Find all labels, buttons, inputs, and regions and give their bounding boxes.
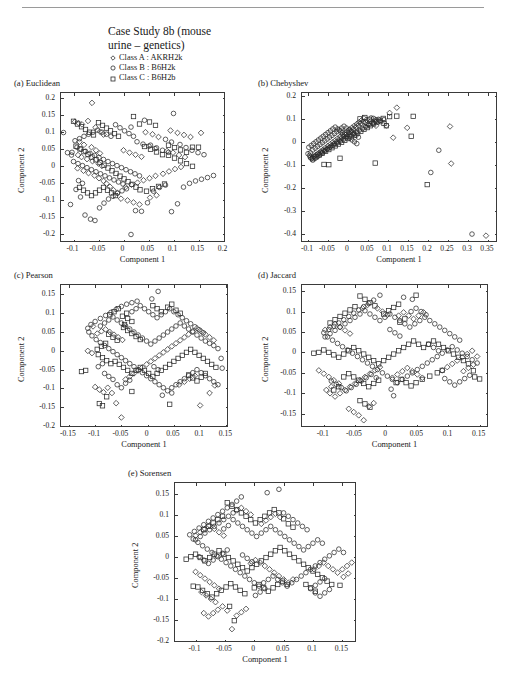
plot-area-d [301, 284, 488, 427]
x-tick-label: 0.1 [168, 244, 178, 253]
x-tick-label: 0.25 [440, 244, 453, 253]
x-tick-label: 0.05 [166, 429, 179, 438]
data-points-e [175, 483, 356, 642]
subplot-title-d: (d) Jaccard [258, 270, 296, 280]
x-tick-label: 0 [145, 429, 149, 438]
x-tick-label: 0.15 [191, 244, 204, 253]
page-top-rule [22, 7, 484, 8]
y-tick-label: -0.4 [258, 228, 296, 237]
x-tick-label: -0.1 [301, 244, 313, 253]
y-tick-label: 0.15 [258, 286, 296, 295]
plot-area-b [301, 92, 497, 242]
y-tick-label: -0.15 [258, 408, 296, 417]
subplot-title-b: (b) Chebyshev [258, 78, 308, 88]
x-tick-label: 0 [121, 244, 125, 253]
y-tick-label: 0.1 [14, 127, 55, 136]
x-tick-label: 0.35 [480, 244, 493, 253]
plot-area-c [60, 284, 228, 427]
caption-line-2: urine – genetics) [108, 38, 338, 52]
x-tick-label: -0.1 [88, 429, 100, 438]
y-axis-label: Component 2 [131, 543, 140, 588]
legend-label: Class C : B6H2b [119, 73, 176, 83]
y-tick-label: 0.05 [258, 326, 296, 335]
y-tick-label: 0.2 [258, 91, 296, 100]
figure-page: Case Study 8b (mouse urine – genetics) C… [0, 0, 506, 676]
y-tick [226, 426, 228, 427]
x-tick-label: 0.1 [307, 644, 317, 653]
plot-area-e [174, 482, 356, 642]
y-tick-label: -0.2 [14, 229, 55, 238]
x-tick-label: 0.2 [422, 244, 432, 253]
x-tick-label: 0.1 [194, 429, 204, 438]
x-tick-label: -0.05 [112, 429, 128, 438]
series-circle [322, 293, 480, 398]
y-tick-label: 0.15 [128, 488, 169, 497]
series-square [312, 293, 482, 409]
series-circle [306, 116, 475, 237]
x-tick-label: 0.15 [219, 429, 232, 438]
y-tick-label: -0.1 [14, 195, 55, 204]
y-axis-label: Component 2 [17, 336, 26, 381]
subplot-title-c: (c) Pearson [14, 270, 53, 280]
y-tick-label: 0.1 [128, 509, 169, 518]
x-tick-label: 0 [251, 644, 255, 653]
legend-label: Class A : AKRH2k [119, 53, 183, 63]
x-tick-label: 0 [383, 429, 387, 438]
y-tick-label: 0 [258, 137, 296, 146]
legend-item-0: Class A : AKRH2k [110, 53, 183, 63]
x-tick-label: -0.05 [216, 644, 232, 653]
x-tick-label: -0.15 [60, 429, 76, 438]
data-points-a [61, 93, 225, 242]
x-tick-label: 0.3 [462, 244, 472, 253]
legend-item-2: Class C : B6H2b [110, 73, 183, 83]
x-tick-label: 0.1 [382, 244, 392, 253]
y-tick-label: 0.1 [14, 308, 55, 317]
legend-label: Class B : B6H2k [119, 63, 176, 73]
series-circle [187, 487, 345, 599]
data-points-d [302, 285, 488, 427]
data-points-b [302, 93, 497, 242]
y-tick-label: 0.15 [14, 289, 55, 298]
y-axis-label: Component 2 [261, 148, 270, 193]
x-axis-label: Component 1 [372, 440, 417, 449]
y-axis-label: Component 2 [17, 148, 26, 193]
diamond-marker [110, 55, 116, 61]
series-circle [61, 111, 216, 237]
legend-item-1: Class B : B6H2k [110, 63, 183, 73]
x-tick-label: 0 [345, 244, 349, 253]
figure-legend: Class A : AKRH2kClass B : B6H2kClass C :… [110, 53, 183, 84]
circle-marker [110, 65, 116, 71]
subplot-title-a: (a) Euclidean [14, 78, 60, 88]
y-tick-label: -0.3 [258, 205, 296, 214]
y-tick [175, 641, 178, 642]
y-tick-label: -0.1 [128, 593, 169, 602]
x-tick-label: 0.05 [410, 429, 423, 438]
x-tick-label: 0.05 [360, 244, 373, 253]
y-tick-label: -0.15 [128, 614, 169, 623]
figure-caption-header: Case Study 8b (mouse urine – genetics) [108, 24, 338, 52]
x-tick-label: 0.1 [443, 429, 453, 438]
x-tick-label: -0.05 [319, 244, 335, 253]
subplot-title-e: (e) Sorensen [128, 468, 171, 478]
plot-area-a [60, 92, 225, 242]
y-tick-label: -0.2 [14, 421, 55, 430]
y-axis-label: Component 2 [261, 336, 270, 381]
y-tick-label: 0.1 [258, 306, 296, 315]
y-tick-label: -0.15 [14, 212, 55, 221]
x-tick-label: -0.1 [189, 644, 201, 653]
x-tick-label: 0.05 [141, 244, 154, 253]
y-tick-label: -0.2 [128, 635, 169, 644]
x-tick-label: 0.15 [472, 429, 485, 438]
y-tick [61, 426, 64, 427]
y-tick-label: 0.1 [258, 114, 296, 123]
y-tick [354, 641, 356, 642]
x-axis-label: Component 1 [376, 255, 421, 264]
y-tick-label: 0.2 [14, 93, 55, 102]
caption-line-1: Case Study 8b (mouse [108, 24, 338, 38]
y-tick-label: 0.05 [128, 530, 169, 539]
x-tick-label: 0.2 [218, 244, 228, 253]
y-tick-label: -0.1 [14, 383, 55, 392]
x-tick-label: -0.05 [90, 244, 106, 253]
x-axis-label: Component 1 [121, 440, 166, 449]
x-axis-label: Component 1 [242, 655, 287, 664]
